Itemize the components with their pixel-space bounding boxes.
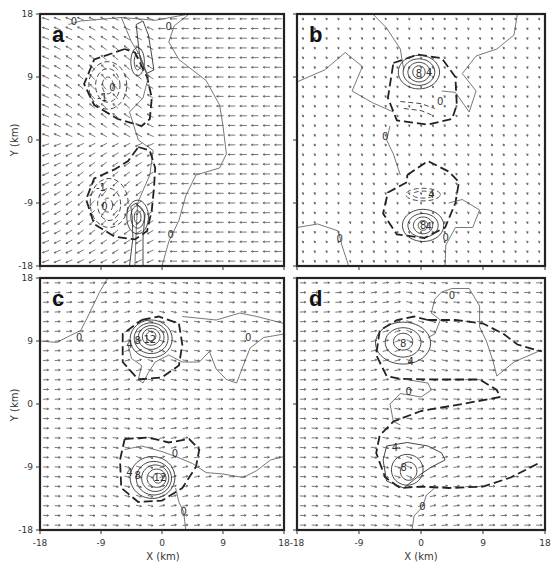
wind-vector: [78, 181, 84, 185]
wind-vector: [90, 230, 95, 234]
zero-contour: [162, 14, 226, 266]
wind-vector: [113, 230, 118, 234]
wind-vector: [101, 36, 107, 40]
wind-vector: [66, 85, 72, 89]
panel-d: 0840480d-18-90918: [290, 278, 551, 548]
contour-label: 0: [109, 82, 115, 93]
wind-vector: [78, 162, 84, 166]
y-axis-title-a: Y (km): [9, 124, 20, 158]
contour-label: 0: [71, 16, 77, 27]
four-panel-vorticity-wind-figure: 00-10-100a1890-9-18 840048400b 012840048…: [0, 0, 554, 570]
wind-vector: [125, 201, 130, 206]
vorticity-contours: [297, 14, 517, 266]
wind-vector: [113, 123, 119, 127]
x-axis-title-c: X (km): [146, 551, 179, 562]
contour-label: 8: [401, 462, 407, 473]
panel-frame: [40, 278, 284, 530]
wind-vector: [125, 65, 130, 70]
wind-vector: [113, 181, 118, 186]
contour-label: 0: [449, 290, 455, 301]
wind-vector: [89, 162, 95, 166]
vorticity-contours: [40, 278, 284, 530]
panel-frame: [40, 14, 284, 266]
positive-contour: [134, 211, 141, 224]
wind-vector: [78, 191, 83, 195]
wind-vector: [101, 240, 107, 244]
wind-vector: [78, 172, 84, 176]
zero-contour: [40, 278, 108, 342]
contour-label: 0: [443, 232, 449, 243]
panel-letter: c: [52, 286, 64, 311]
wind-vector: [78, 220, 84, 224]
wind-vector: [125, 94, 130, 99]
wind-vector: [124, 230, 130, 234]
wind-vector: [124, 124, 130, 128]
wind-vector: [78, 230, 84, 234]
wind-vector: [90, 172, 95, 176]
contour-label: 0: [337, 233, 343, 244]
wind-vector: [101, 250, 107, 254]
contour-label: 12: [143, 334, 156, 345]
wind-vector: [136, 182, 142, 186]
zero-contour: [445, 200, 480, 267]
contour-label: 0: [405, 386, 411, 397]
wind-vector: [124, 240, 130, 244]
x-axis-title-d: X (km): [404, 551, 437, 562]
panel-frame: [297, 278, 545, 530]
wind-vector: [66, 172, 72, 176]
wind-vector: [90, 84, 95, 89]
panel-letter: d: [309, 286, 322, 311]
panel-b: 840048400b: [293, 14, 545, 270]
wind-vector: [66, 201, 72, 205]
contour-label: -1: [96, 182, 106, 193]
contour-label: 0: [419, 501, 425, 512]
wind-vector: [101, 162, 107, 166]
y-tick-label: -18: [18, 261, 33, 271]
wind-vector: [124, 114, 130, 118]
y-tick-label: -9: [24, 462, 33, 472]
negative-contour: [404, 109, 432, 115]
contour-label: 4: [126, 467, 132, 478]
wind-vector: [78, 56, 84, 60]
wind-vector: [113, 55, 118, 60]
contour-label: 0: [76, 332, 82, 343]
contour-label: 0: [437, 96, 443, 107]
x-tick-label: -18: [290, 538, 305, 548]
vorticity-contours: [69, 14, 227, 266]
wind-vector: [101, 114, 106, 118]
y-tick-label: -9: [24, 198, 33, 208]
contour-label: 0: [101, 201, 107, 212]
wind-vector: [136, 114, 142, 118]
wind-vector: [124, 104, 129, 108]
zero-divergence-contour: [376, 317, 500, 398]
wind-vector: [78, 240, 84, 244]
zero-divergence-contour: [86, 147, 155, 239]
contour-label: 0: [245, 332, 251, 343]
y-tick-label: -18: [18, 525, 33, 535]
wind-vector: [136, 240, 142, 244]
zero-contour: [435, 289, 538, 377]
zero-contour: [297, 53, 393, 113]
x-tick-label: -9: [355, 538, 364, 548]
wind-vector: [124, 172, 130, 176]
wind-vector: [78, 201, 83, 206]
contour-label: 0: [382, 131, 388, 142]
wind-vector: [113, 250, 119, 254]
wind-vector: [113, 172, 118, 176]
wind-vector: [78, 75, 83, 80]
wind-vector: [113, 162, 119, 166]
wind-vector: [66, 191, 72, 195]
wind-vector: [66, 56, 72, 60]
contour-label: 4: [126, 339, 132, 350]
wind-vector: [78, 210, 83, 214]
y-tick-label: 0: [27, 135, 33, 145]
wind-vector: [124, 55, 129, 59]
x-tick-label: 9: [220, 538, 226, 548]
x-tick-label: -9: [97, 538, 106, 548]
wind-vector: [101, 104, 106, 109]
panel-letter: a: [52, 22, 65, 47]
wind-vector: [113, 46, 119, 50]
wind-vector: [78, 84, 83, 89]
wind-vector: [66, 104, 72, 108]
wind-vector: [101, 153, 107, 157]
